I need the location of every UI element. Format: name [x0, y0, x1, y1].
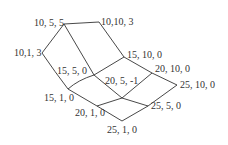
node-label-10-5-5: 10, 5, 5	[34, 18, 64, 28]
node-label-15-10-0: 15, 10, 0	[127, 50, 162, 60]
node-label-25-10-0: 25, 10, 0	[180, 80, 215, 90]
node-label-15-5-0: 15, 5, 0	[57, 66, 87, 76]
node-label-20-1-0: 20, 1, 0	[75, 108, 105, 118]
node-label-25-1-0: 25, 1, 0	[107, 125, 137, 135]
edge	[97, 98, 122, 106]
edge	[99, 22, 124, 57]
edge	[42, 24, 64, 53]
edge	[122, 106, 148, 121]
edge	[152, 73, 177, 85]
edge	[68, 75, 94, 89]
node-label-15-1-0: 15, 1, 0	[44, 93, 74, 103]
edge	[94, 57, 124, 75]
node-label-10-1-3: 10,1, 3	[14, 48, 42, 58]
node-label-20-5-neg1: 20, 5, -1	[105, 76, 138, 86]
node-label-10-10-3: 10,10, 3	[101, 17, 134, 27]
node-label-25-5-0: 25, 5, 0	[151, 101, 181, 111]
lattice-diagram: 10, 5, 5 10,10, 3 10,1, 3 15, 10, 0 15, …	[0, 0, 228, 145]
edge	[64, 22, 99, 24]
edge	[122, 98, 148, 106]
node-label-20-10-0: 20, 10, 0	[155, 64, 190, 74]
